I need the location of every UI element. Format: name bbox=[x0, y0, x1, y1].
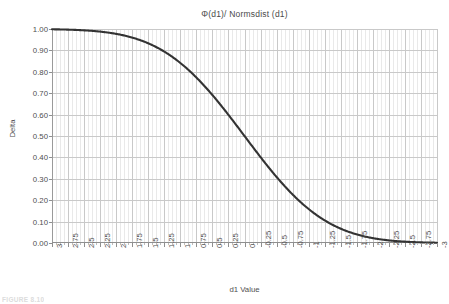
y-axis-tick-label: 0.80 bbox=[22, 67, 48, 76]
x-axis-tick-label: 1.25 bbox=[167, 233, 176, 248]
x-axis-tick-mark-minor bbox=[385, 243, 386, 245]
x-axis-tick-mark bbox=[84, 243, 85, 247]
x-axis-tick-mark-minor bbox=[369, 243, 370, 245]
x-axis-tick-mark-minor bbox=[128, 243, 129, 245]
y-axis-tick-label: 0.00 bbox=[22, 239, 48, 248]
y-axis-tick-label: 0.30 bbox=[22, 174, 48, 183]
x-axis-label: d1 Value bbox=[52, 285, 437, 294]
x-axis-tick-label: -1.5 bbox=[344, 235, 353, 248]
x-axis-tick-mark-minor bbox=[240, 243, 241, 245]
x-axis-tick-mark bbox=[341, 243, 342, 247]
x-axis-tick-mark bbox=[325, 243, 326, 247]
x-axis-tick-mark-minor bbox=[96, 243, 97, 245]
x-axis-tick-label: 0 bbox=[248, 244, 257, 248]
x-axis-tick-mark bbox=[228, 243, 229, 247]
x-axis-tick-mark-minor bbox=[321, 243, 322, 245]
y-axis-tick-label: 0.70 bbox=[22, 89, 48, 98]
x-axis-tick-label: 1 bbox=[183, 244, 192, 248]
x-axis-tick-mark bbox=[293, 243, 294, 247]
x-axis-tick-mark bbox=[389, 243, 390, 247]
x-axis-tick-label: -1.25 bbox=[328, 231, 337, 248]
x-axis-tick-label: -1.75 bbox=[360, 231, 369, 248]
x-axis-tick-mark bbox=[245, 243, 246, 247]
x-axis-tick-mark-minor bbox=[160, 243, 161, 245]
x-axis-tick-mark-minor bbox=[289, 243, 290, 245]
y-axis-tick-label: 0.50 bbox=[22, 132, 48, 141]
x-axis-tick-label: -0.25 bbox=[264, 231, 273, 248]
y-axis-tick-label: 0.20 bbox=[22, 196, 48, 205]
y-axis-tick-label: 0.60 bbox=[22, 110, 48, 119]
x-axis-tick-label: -2.5 bbox=[408, 235, 417, 248]
x-axis-tick-label: -2 bbox=[376, 241, 385, 248]
x-axis-tick-mark-minor bbox=[305, 243, 306, 245]
x-axis-tick-mark bbox=[309, 243, 310, 247]
x-axis-tick-label: 3 bbox=[55, 244, 64, 248]
x-axis-tick-mark bbox=[421, 243, 422, 247]
x-axis-tick-label: -0.75 bbox=[296, 231, 305, 248]
x-axis-tick-label: 2 bbox=[119, 244, 128, 248]
x-axis-tick-mark bbox=[52, 243, 53, 247]
y-axis-tick-label: 0.40 bbox=[22, 153, 48, 162]
y-axis-tick-label: 0.10 bbox=[22, 217, 48, 226]
x-axis-tick-mark-minor bbox=[273, 243, 274, 245]
x-axis-tick-mark-minor bbox=[224, 243, 225, 245]
y-axis-tick-labels: 1.000.900.800.700.600.500.400.300.200.10… bbox=[18, 29, 48, 243]
x-axis-tick-label: 0.25 bbox=[231, 233, 240, 248]
x-axis-tick-mark bbox=[100, 243, 101, 247]
x-axis-tick-mark bbox=[180, 243, 181, 247]
normal-cdf-curve bbox=[52, 29, 437, 243]
x-axis-tick-mark bbox=[357, 243, 358, 247]
x-axis-tick-labels: 32.752.52.2521.751.51.2510.750.50.250-0.… bbox=[52, 248, 437, 280]
x-axis-tick-mark bbox=[405, 243, 406, 247]
x-axis-tick-label: 0.75 bbox=[199, 233, 208, 248]
x-axis-tick-mark bbox=[373, 243, 374, 247]
x-axis-tick-mark-minor bbox=[337, 243, 338, 245]
y-axis-tick-label: 0.90 bbox=[22, 46, 48, 55]
gridline-vertical-major bbox=[437, 29, 438, 243]
x-axis-tick-mark-minor bbox=[64, 243, 65, 245]
x-axis-tick-label: 1.5 bbox=[151, 237, 160, 248]
x-axis-tick-label: -3 bbox=[440, 241, 449, 248]
x-axis-tick-label: -2.25 bbox=[392, 231, 401, 248]
x-axis-tick-mark-minor bbox=[257, 243, 258, 245]
x-axis-tick-mark bbox=[261, 243, 262, 247]
plot-area bbox=[52, 29, 437, 243]
x-axis-tick-label: -1 bbox=[312, 241, 321, 248]
x-axis-tick-mark bbox=[148, 243, 149, 247]
y-axis-label: Delta bbox=[8, 106, 17, 152]
chart-figure: Φ(d1)/ Normsdist (d1) Delta 1.000.900.80… bbox=[0, 0, 449, 304]
x-axis-tick-label: -2.75 bbox=[424, 231, 433, 248]
x-axis-tick-mark-minor bbox=[433, 243, 434, 245]
x-axis-tick-mark-minor bbox=[192, 243, 193, 245]
x-axis-tick-mark bbox=[437, 243, 438, 247]
chart-title: Φ(d1)/ Normsdist (d1) bbox=[52, 9, 437, 19]
x-axis-tick-mark-minor bbox=[176, 243, 177, 245]
x-axis-tick-mark-minor bbox=[112, 243, 113, 245]
x-axis-tick-mark bbox=[277, 243, 278, 247]
x-axis-tick-mark bbox=[132, 243, 133, 247]
x-axis-tick-mark-minor bbox=[401, 243, 402, 245]
x-axis-tick-label: 2.75 bbox=[71, 233, 80, 248]
x-axis-tick-mark-minor bbox=[353, 243, 354, 245]
x-axis-tick-mark bbox=[68, 243, 69, 247]
x-axis-tick-mark-minor bbox=[144, 243, 145, 245]
x-axis-tick-label: 2.25 bbox=[103, 233, 112, 248]
x-axis-tick-mark-minor bbox=[208, 243, 209, 245]
x-axis-tick-mark bbox=[164, 243, 165, 247]
x-axis-tick-label: 1.75 bbox=[135, 233, 144, 248]
x-axis-tick-label: 0.5 bbox=[215, 237, 224, 248]
y-axis-tick-label: 1.00 bbox=[22, 25, 48, 34]
x-axis-tick-label: -0.5 bbox=[280, 235, 289, 248]
x-axis-tick-mark bbox=[196, 243, 197, 247]
x-axis-tick-mark-minor bbox=[80, 243, 81, 245]
x-axis-tick-label: 2.5 bbox=[87, 237, 96, 248]
x-axis-tick-mark-minor bbox=[417, 243, 418, 245]
x-axis-tick-mark bbox=[212, 243, 213, 247]
x-axis-tick-mark bbox=[116, 243, 117, 247]
figure-caption: FIGURE 8.10 bbox=[2, 296, 44, 302]
